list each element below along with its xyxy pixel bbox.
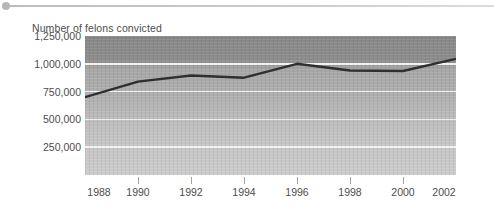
x-tick-mark	[297, 177, 298, 184]
top-divider	[0, 0, 494, 14]
y-tick-label: 500,000	[3, 113, 81, 125]
x-tick-label: 1990	[126, 186, 149, 198]
horizontal-rule-icon	[8, 5, 494, 7]
y-tick-label: 250,000	[3, 141, 81, 153]
y-axis: 250,000500,000750,0001,000,0001,250,000	[0, 36, 81, 175]
x-tick-mark	[191, 177, 192, 184]
series-line	[85, 59, 456, 97]
x-tick-mark	[350, 177, 351, 184]
x-tick-label: 1988	[87, 186, 110, 198]
y-tick-label: 750,000	[3, 86, 81, 98]
x-tick-mark	[138, 177, 139, 184]
x-tick-label: 1994	[232, 186, 255, 198]
x-axis: 19881990199219941996199820002002	[85, 175, 456, 215]
chart-figure: Number of felons convicted 250,000500,00…	[0, 14, 494, 215]
y-tick-label: 1,000,000	[3, 58, 81, 70]
x-tick-mark	[244, 177, 245, 184]
x-tick-label: 1996	[285, 186, 308, 198]
x-tick-label: 2000	[391, 186, 414, 198]
x-tick-label: 2002	[432, 186, 455, 198]
x-tick-mark	[403, 177, 404, 184]
x-tick-label: 1992	[179, 186, 202, 198]
bullet-dot-icon	[2, 2, 10, 10]
line-series	[85, 36, 456, 175]
plot-area	[85, 36, 456, 175]
x-tick-label: 1998	[338, 186, 361, 198]
y-tick-label: 1,250,000	[3, 30, 81, 42]
